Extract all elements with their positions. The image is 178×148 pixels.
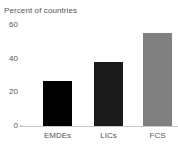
x-axis-baseline (19, 126, 178, 127)
plot-area (22, 25, 178, 126)
y-axis: 60 40 20 0 (0, 25, 22, 126)
bar-chart-figure: Percent of countries 60 40 20 0 EMDEs LI… (0, 0, 178, 148)
x-tick-label-fcs: FCS (150, 131, 166, 141)
bar-fcs[interactable] (143, 33, 172, 126)
x-tick-label-lics: LICs (100, 131, 116, 141)
x-tick-label-emdes: EMDEs (44, 131, 71, 141)
x-axis: EMDEs LICs FCS (22, 131, 178, 143)
bar-emdes[interactable] (43, 81, 72, 126)
y-tick-label-40: 40 (9, 55, 18, 63)
bar-lics[interactable] (94, 62, 123, 126)
chart-title: Percent of countries (4, 6, 77, 16)
y-tick-label-0: 0 (14, 122, 18, 130)
y-tick-label-60: 60 (9, 21, 18, 29)
y-tick-label-20: 20 (9, 88, 18, 96)
